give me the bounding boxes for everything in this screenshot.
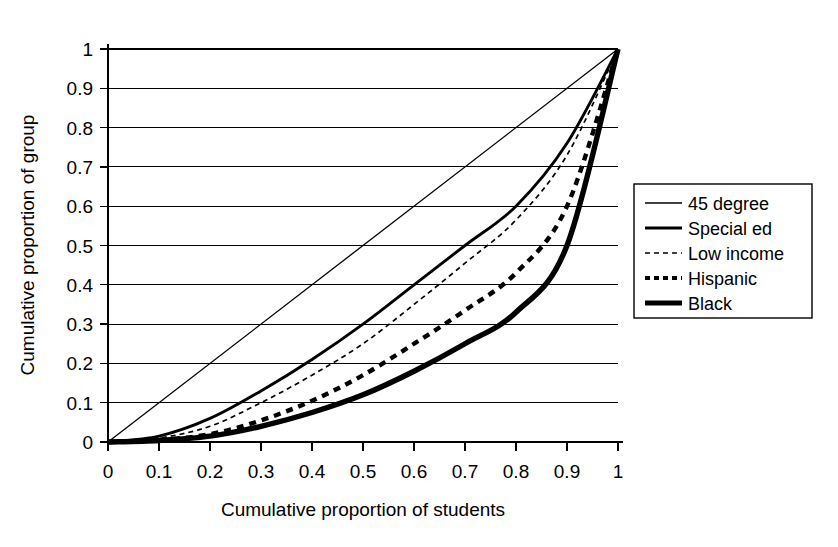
y-axis-title: Cumulative proportion of group [17,115,38,376]
x-tick-label-0.1: 0.1 [146,461,172,482]
x-tick-label-1: 1 [613,461,624,482]
legend-label-special-ed: Special ed [688,219,772,239]
y-tick-label-0.6: 0.6 [67,196,93,217]
x-tick-label-0.2: 0.2 [197,461,223,482]
y-tick-label-0: 0 [82,432,93,453]
y-tick-label-1.0: 1 [82,39,93,60]
legend: 45 degree Special ed Low income Hispanic… [634,184,812,318]
y-tick-label-0.2: 0.2 [67,353,93,374]
y-tick-label-0.7: 0.7 [67,157,93,178]
y-tick-labels: 1 0.9 0.8 0.7 0.6 0.5 0.4 0.3 0.2 0.1 0 [67,39,94,453]
x-tick-label-0.8: 0.8 [503,461,529,482]
y-tick-label-0.9: 0.9 [67,78,93,99]
legend-label-45-degree: 45 degree [688,194,769,214]
chart-canvas: 1 0.9 0.8 0.7 0.6 0.5 0.4 0.3 0.2 0.1 0 … [0,0,838,547]
y-tick-marks [100,49,108,442]
x-tick-label-0.4: 0.4 [299,461,326,482]
legend-label-hispanic: Hispanic [688,269,757,289]
y-tick-label-0.5: 0.5 [67,236,93,257]
x-tick-label-0: 0 [103,461,114,482]
x-tick-marks [108,442,618,451]
y-tick-label-0.4: 0.4 [67,275,94,296]
x-tick-labels: 0 0.1 0.2 0.3 0.4 0.5 0.6 0.7 0.8 0.9 1 [103,461,624,482]
y-tick-label-0.3: 0.3 [67,314,93,335]
y-tick-label-0.8: 0.8 [67,118,93,139]
x-axis-title: Cumulative proportion of students [221,499,505,520]
x-tick-label-0.7: 0.7 [452,461,478,482]
x-tick-label-0.5: 0.5 [350,461,376,482]
legend-label-black: Black [688,294,733,314]
gridlines [108,49,618,403]
x-tick-label-0.3: 0.3 [248,461,274,482]
x-tick-label-0.6: 0.6 [401,461,427,482]
legend-label-low-income: Low income [688,244,784,264]
x-tick-label-0.9: 0.9 [554,461,580,482]
lorenz-curve-chart: 1 0.9 0.8 0.7 0.6 0.5 0.4 0.3 0.2 0.1 0 … [0,0,838,547]
y-tick-label-0.1: 0.1 [67,393,93,414]
